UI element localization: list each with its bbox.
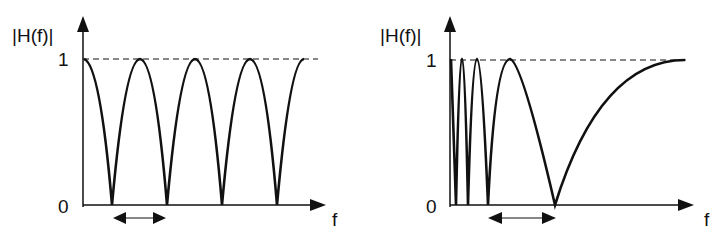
- arrow-left-icon: [113, 212, 126, 224]
- tick-zero: 0: [426, 196, 437, 217]
- y-axis-label: |H(f)|: [380, 25, 422, 46]
- x-axis-arrow-icon: [310, 199, 326, 211]
- tick-zero: 0: [58, 196, 69, 217]
- y-axis-label: |H(f)|: [12, 25, 54, 46]
- arrow-right-icon: [153, 212, 166, 224]
- x-axis-label: f: [704, 209, 710, 230]
- y-axis-arrow-icon: [444, 16, 456, 32]
- response-curve: [84, 59, 304, 205]
- response-curve: [451, 59, 685, 205]
- y-axis-arrow-icon: [77, 16, 89, 32]
- tick-one: 1: [58, 49, 69, 70]
- x-axis-arrow-icon: [678, 199, 694, 211]
- arrow-right-icon: [542, 212, 556, 224]
- frequency-response-diagram: |H(f)| 1 0 f |H(f)| 1 0 f: [0, 0, 716, 237]
- arrow-left-icon: [488, 212, 502, 224]
- x-axis-label: f: [332, 209, 338, 230]
- right-panel: |H(f)| 1 0 f: [380, 16, 710, 230]
- left-panel: |H(f)| 1 0 f: [12, 16, 338, 230]
- tick-one: 1: [426, 50, 437, 71]
